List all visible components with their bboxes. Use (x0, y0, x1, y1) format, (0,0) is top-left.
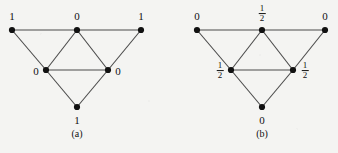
vertex-label: 0 (322, 11, 328, 22)
graph-diagram-svg (0, 0, 338, 153)
vertex-label: 1 (138, 11, 144, 22)
graph-edge (12, 30, 46, 70)
vertex-label: 1 (74, 115, 80, 126)
fraction-denominator: 2 (259, 15, 266, 24)
graph-vertex (290, 67, 296, 73)
graph-edge (77, 30, 108, 70)
graph-vertex (74, 104, 80, 110)
graph-vertex (43, 67, 49, 73)
graph-edge (77, 70, 108, 107)
graph-edge (262, 30, 293, 70)
graph-edge (262, 70, 293, 107)
figure-canvas: 101001(a)012012120(b) (0, 0, 338, 153)
graph-vertex (194, 27, 200, 33)
vertex-label-fraction: 12 (302, 61, 309, 81)
graph-edge (108, 30, 141, 70)
graph-vertex (322, 27, 328, 33)
vertex-label: 0 (33, 66, 39, 77)
vertex-label: 0 (74, 11, 80, 22)
panel-caption-a: (a) (71, 129, 82, 139)
graph-edge (231, 30, 262, 70)
vertex-label-fraction: 12 (259, 4, 266, 24)
graph-vertex (138, 27, 144, 33)
vertex-label: 0 (259, 115, 265, 126)
graph-vertex (105, 67, 111, 73)
fraction-denominator: 2 (302, 72, 309, 81)
vertex-label: 1 (9, 11, 15, 22)
graph-vertex (259, 27, 265, 33)
graph-edge (197, 30, 231, 70)
graph-edge (231, 70, 262, 107)
graph-vertex (9, 27, 15, 33)
graph-nodes-layer (9, 27, 328, 110)
graph-edge (46, 30, 77, 70)
fraction-denominator: 2 (217, 72, 224, 81)
graph-edge (293, 30, 325, 70)
graph-edges-layer (12, 30, 325, 107)
panel-caption-b: (b) (256, 129, 268, 139)
vertex-label: 0 (194, 11, 200, 22)
graph-vertex (228, 67, 234, 73)
graph-vertex (259, 104, 265, 110)
graph-edge (46, 70, 77, 107)
vertex-label-fraction: 12 (217, 61, 224, 81)
graph-vertex (74, 27, 80, 33)
vertex-label: 0 (115, 66, 121, 77)
